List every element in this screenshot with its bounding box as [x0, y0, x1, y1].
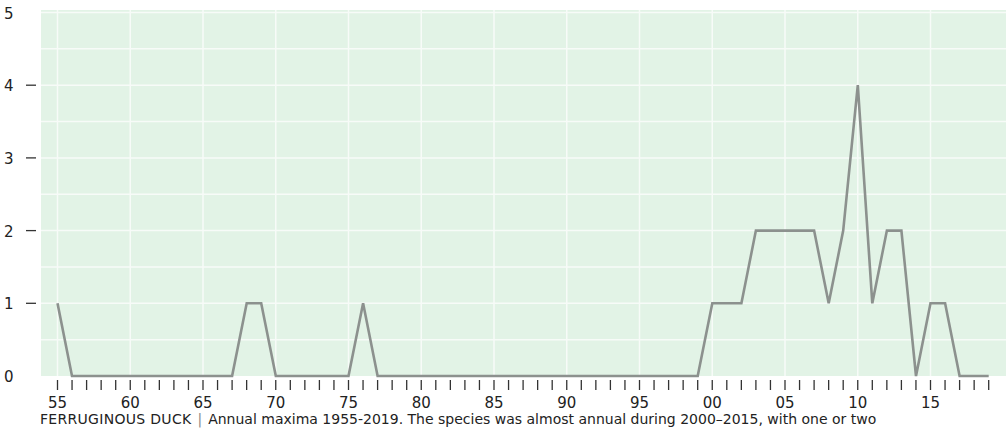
- y-tick-label: 4: [4, 77, 14, 95]
- caption-species: FERRUGINOUS DUCK: [40, 411, 191, 427]
- x-tick-label: 75: [339, 394, 358, 412]
- caption-separator: |: [197, 411, 202, 427]
- figure-caption: FERRUGINOUS DUCK|Annual maxima 1955-2019…: [40, 411, 876, 427]
- x-tick-label: 55: [48, 394, 67, 412]
- y-tick-label: 5: [4, 5, 14, 23]
- x-axis: 55606570758085909500051015: [48, 380, 989, 412]
- caption-text: Annual maxima 1955-2019. The species was…: [208, 411, 876, 427]
- x-tick-label: 70: [266, 394, 285, 412]
- x-tick-label: 65: [193, 394, 212, 412]
- y-tick-label: 1: [4, 295, 14, 313]
- x-tick-label: 90: [557, 394, 576, 412]
- x-tick-label: 80: [412, 394, 431, 412]
- y-tick-label: 3: [4, 150, 14, 168]
- y-tick-label: 2: [4, 223, 14, 241]
- x-tick-label: 60: [121, 394, 140, 412]
- x-tick-label: 85: [484, 394, 503, 412]
- plot-area: [41, 10, 1006, 376]
- y-tick-label: 0: [4, 368, 14, 386]
- y-axis: 012345: [4, 5, 36, 387]
- x-tick-label: 00: [703, 394, 722, 412]
- line-chart: 012345 55606570758085909500051015: [0, 0, 1006, 432]
- x-tick-label: 05: [775, 394, 794, 412]
- x-tick-label: 95: [630, 394, 649, 412]
- x-tick-label: 10: [848, 394, 867, 412]
- x-tick-label: 15: [921, 394, 940, 412]
